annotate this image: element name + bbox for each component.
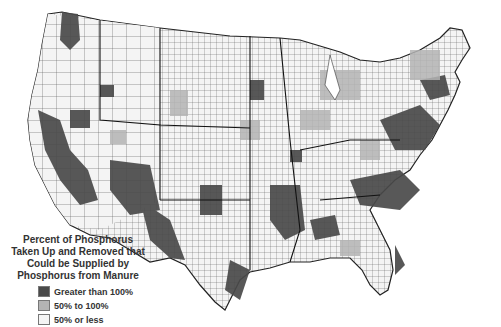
legend-label: Greater than 100% bbox=[54, 287, 133, 297]
legend-title-line: Taken Up and Removed that bbox=[2, 246, 154, 258]
legend-label: 50% or less bbox=[54, 315, 104, 325]
legend-title-line: Could be Supplied by bbox=[2, 258, 154, 270]
legend-title-line: Phosphorus from Manure bbox=[2, 270, 154, 282]
legend-swatch-low bbox=[38, 314, 50, 325]
legend-label: 50% to 100% bbox=[54, 301, 109, 311]
legend-item-low: 50% or less bbox=[38, 313, 154, 326]
legend-swatch-mid bbox=[38, 300, 50, 311]
map-legend: Percent of Phosphorus Taken Up and Remov… bbox=[2, 234, 154, 327]
legend-swatch-high bbox=[38, 286, 50, 297]
legend-item-high: Greater than 100% bbox=[38, 285, 154, 298]
legend-title-line: Percent of Phosphorus bbox=[2, 234, 154, 246]
legend-title: Percent of Phosphorus Taken Up and Remov… bbox=[2, 234, 154, 282]
legend-item-mid: 50% to 100% bbox=[38, 299, 154, 312]
